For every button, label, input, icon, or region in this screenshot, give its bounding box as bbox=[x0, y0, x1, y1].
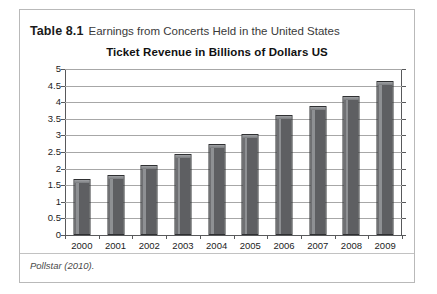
y-axis-tick-label: 2.5 bbox=[27, 146, 61, 157]
bar bbox=[208, 144, 225, 235]
bars-layer bbox=[65, 69, 402, 235]
x-axis-tick bbox=[132, 235, 133, 239]
y-axis-tick-label: 5 bbox=[27, 63, 61, 74]
y-axis-tick-label: 3.5 bbox=[27, 113, 61, 124]
caption-text: Earnings from Concerts Held in the Unite… bbox=[88, 25, 339, 37]
y-axis-tick bbox=[402, 102, 406, 103]
y-axis-tick-label: 2 bbox=[27, 163, 61, 174]
y-axis-tick bbox=[402, 202, 406, 203]
bar-slot bbox=[335, 69, 369, 235]
bar-cap bbox=[175, 155, 190, 158]
bar-cap bbox=[310, 107, 325, 110]
bar-slot bbox=[166, 69, 200, 235]
source-note: Pollstar (2010). bbox=[30, 260, 94, 271]
y-axis-tick bbox=[402, 185, 406, 186]
x-axis-tick bbox=[402, 235, 403, 239]
x-axis-tick bbox=[99, 235, 100, 239]
x-axis-tick bbox=[267, 235, 268, 239]
figure-caption: Table 8.1Earnings from Concerts Held in … bbox=[30, 21, 404, 39]
y-axis-tick bbox=[402, 218, 406, 219]
bar bbox=[343, 96, 360, 235]
plot-area: 00.511.522.533.544.55 200020012002200320… bbox=[65, 69, 402, 235]
bar bbox=[174, 154, 191, 235]
y-axis-tick bbox=[402, 135, 406, 136]
bar-slot bbox=[132, 69, 166, 235]
bar-cap bbox=[277, 116, 292, 119]
figure-frame: Table 8.1Earnings from Concerts Held in … bbox=[19, 9, 415, 283]
y-axis-tick-label: 1.5 bbox=[27, 179, 61, 190]
y-axis-tick bbox=[402, 86, 406, 87]
y-axis-tick bbox=[402, 69, 406, 70]
bar bbox=[377, 81, 394, 235]
bar bbox=[107, 175, 124, 235]
y-axis-tick-label: 0.5 bbox=[27, 212, 61, 223]
bar-cap bbox=[378, 82, 393, 85]
bar bbox=[276, 115, 293, 235]
bar-cap bbox=[142, 166, 157, 169]
y-axis-tick-label: 4.5 bbox=[27, 80, 61, 91]
bar-slot bbox=[234, 69, 268, 235]
x-axis-tick bbox=[166, 235, 167, 239]
bar-cap bbox=[74, 180, 89, 183]
bar-slot bbox=[99, 69, 133, 235]
bar-cap bbox=[344, 97, 359, 100]
chart-title: Ticket Revenue in Billions of Dollars US bbox=[29, 46, 405, 58]
bar-cap bbox=[243, 135, 258, 138]
y-axis-tick bbox=[402, 169, 406, 170]
bar-cap bbox=[209, 145, 224, 148]
bar bbox=[242, 134, 259, 235]
bar-slot bbox=[301, 69, 335, 235]
bar-chart: Ticket Revenue in Billions of Dollars US… bbox=[29, 41, 405, 254]
bar bbox=[73, 179, 90, 235]
x-axis-tick bbox=[234, 235, 235, 239]
bar-slot bbox=[267, 69, 301, 235]
x-axis-tick bbox=[65, 235, 66, 239]
bar bbox=[309, 106, 326, 235]
y-axis-tick bbox=[402, 152, 406, 153]
x-axis-tick-label: 2009 bbox=[365, 240, 405, 251]
bar-slot bbox=[368, 69, 402, 235]
bar-slot bbox=[65, 69, 99, 235]
y-axis-tick-label: 0 bbox=[27, 229, 61, 240]
y-axis-tick-label: 4 bbox=[27, 96, 61, 107]
y-axis-tick-label: 3 bbox=[27, 129, 61, 140]
caption-label: Table 8.1 bbox=[30, 24, 83, 38]
y-axis-tick bbox=[402, 119, 406, 120]
x-axis-tick bbox=[335, 235, 336, 239]
bar-slot bbox=[200, 69, 234, 235]
bar bbox=[141, 165, 158, 235]
x-axis-tick bbox=[200, 235, 201, 239]
x-axis-tick bbox=[301, 235, 302, 239]
bar-cap bbox=[108, 176, 123, 179]
source-divider bbox=[20, 253, 414, 254]
x-axis-tick bbox=[368, 235, 369, 239]
y-axis-tick-label: 1 bbox=[27, 196, 61, 207]
